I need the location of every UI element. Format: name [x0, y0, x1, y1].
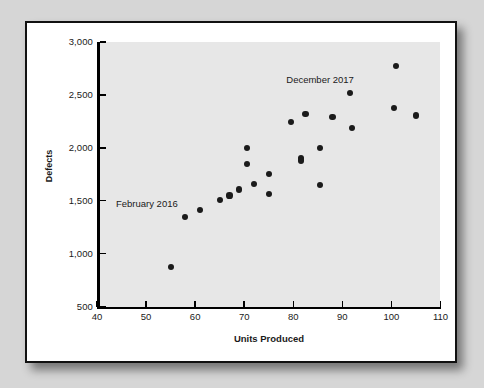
y-tick-label: 3,000 — [49, 36, 93, 47]
data-point — [302, 111, 308, 117]
y-tick-mark — [100, 200, 106, 202]
x-tick-label: 100 — [371, 311, 411, 322]
y-tick-mark — [100, 94, 106, 96]
y-tick-mark — [100, 306, 106, 308]
data-point — [244, 161, 250, 167]
x-axis-line — [97, 307, 441, 310]
data-point — [226, 192, 232, 198]
x-tick-label: 110 — [421, 311, 461, 322]
data-point — [391, 105, 397, 111]
x-tick-mark — [243, 301, 245, 307]
y-tick-mark — [100, 147, 106, 149]
y-tick-mark — [100, 253, 106, 255]
data-point — [329, 114, 335, 120]
x-tick-mark — [145, 301, 147, 307]
x-tick-mark — [96, 301, 98, 307]
x-tick-label: 70 — [224, 311, 264, 322]
x-tick-mark — [342, 301, 344, 307]
y-tick-label: 500 — [49, 301, 93, 312]
chart-annotation: February 2016 — [116, 198, 178, 209]
data-point — [217, 197, 223, 203]
data-point — [349, 125, 355, 131]
data-point — [413, 112, 419, 118]
y-tick-label: 2,000 — [49, 142, 93, 153]
y-axis-title: Defects — [44, 136, 54, 196]
scatter-chart: 5001,0001,5002,0002,5003,000 40506070809… — [27, 23, 455, 361]
x-tick-mark — [194, 301, 196, 307]
y-tick-label: 1,500 — [49, 195, 93, 206]
data-point — [298, 157, 304, 163]
x-tick-mark — [440, 301, 442, 307]
x-tick-label: 50 — [126, 311, 166, 322]
x-tick-mark — [293, 301, 295, 307]
x-tick-label: 60 — [175, 311, 215, 322]
x-tick-label: 40 — [77, 311, 117, 322]
x-tick-label: 80 — [273, 311, 313, 322]
y-tick-mark — [100, 41, 106, 43]
figure-frame: 5001,0001,5002,0002,5003,000 40506070809… — [25, 21, 457, 363]
data-point — [288, 119, 294, 125]
chart-annotation: December 2017 — [286, 74, 354, 85]
data-point — [244, 145, 250, 151]
y-tick-label: 2,500 — [49, 89, 93, 100]
x-tick-mark — [391, 301, 393, 307]
x-axis-title: Units Produced — [97, 333, 441, 344]
y-tick-label: 1,000 — [49, 248, 93, 259]
y-axis-line — [97, 42, 100, 308]
data-point — [266, 191, 272, 197]
x-tick-label: 90 — [322, 311, 362, 322]
